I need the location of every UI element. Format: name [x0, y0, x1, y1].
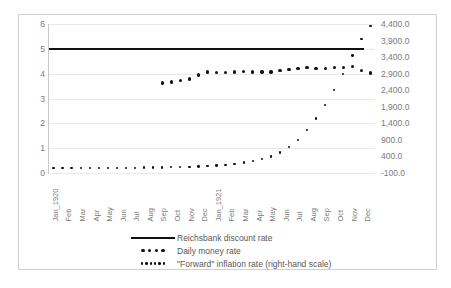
x-axis-tick-label: Jul [133, 211, 141, 221]
legend-item[interactable]: Daily money rate [129, 244, 389, 257]
legend-line-icon [129, 231, 177, 244]
legend-dot [154, 262, 156, 264]
legend-item[interactable]: "Forward" inflation rate (right-hand sca… [129, 257, 389, 270]
data-point [306, 129, 308, 131]
data-point [314, 67, 317, 70]
legend-dot [141, 262, 143, 264]
x-axis-tick-label: May [269, 207, 277, 221]
x-axis-tick-label: Mar [78, 208, 86, 221]
data-point [170, 166, 172, 168]
data-point [269, 70, 272, 73]
x-axis-tick-label: Nov [350, 208, 358, 221]
right-axis-tick-label: 2,400.0 [381, 86, 409, 95]
data-point [287, 68, 290, 71]
x-axis-tick-label: Jan_1920 [51, 188, 59, 221]
small-dots-icon [141, 262, 165, 264]
data-point [80, 167, 82, 169]
legend-dot [145, 262, 147, 264]
x-axis-tick-label: Nov [187, 208, 195, 221]
data-point [360, 38, 362, 40]
data-point [197, 165, 199, 167]
data-point [107, 167, 109, 169]
data-point [179, 79, 182, 82]
gridline [49, 74, 375, 75]
x-axis-tick-label: Sep [323, 208, 331, 221]
data-point [324, 67, 327, 70]
data-point [197, 73, 200, 76]
data-point [297, 139, 299, 141]
data-point [143, 166, 145, 168]
right-axis-tick-label: 4,400.0 [381, 20, 409, 29]
x-axis-tick-label: Apr [255, 209, 263, 221]
x-axis-tick-label: Aug [146, 208, 154, 221]
gridline [49, 24, 375, 25]
right-axis-tick-label: 3,900.0 [381, 36, 409, 45]
legend-label: "Forward" inflation rate (right-hand sca… [177, 259, 331, 269]
gridline [49, 148, 375, 149]
x-axis-tick-label: Aug [309, 208, 317, 221]
data-point [98, 167, 100, 169]
data-point [170, 80, 173, 83]
plot-area [49, 24, 375, 173]
data-point [188, 77, 191, 80]
data-point [270, 155, 272, 157]
data-point [252, 160, 254, 162]
data-point [52, 167, 54, 169]
data-point [333, 66, 336, 69]
left-axis-tick-label: 6 [40, 20, 45, 29]
series-reichsbank-discount-rate [49, 48, 364, 50]
legend-dot [148, 249, 151, 252]
data-point [369, 25, 371, 27]
gridline [49, 123, 375, 124]
x-axis-tick-label: Feb [228, 208, 236, 221]
data-point [243, 161, 245, 163]
data-point [206, 165, 208, 167]
data-point [233, 163, 235, 165]
x-axis-tick-label: May [106, 207, 114, 221]
data-point [315, 117, 317, 119]
left-axis-tick-labels: 0123456 [19, 24, 45, 173]
left-axis-tick-label: 5 [40, 45, 45, 54]
right-axis-tick-labels: -100.0400.0900.01,400.01,900.02,400.02,9… [381, 24, 437, 173]
data-point [89, 167, 91, 169]
data-point [351, 65, 354, 68]
data-point [351, 54, 353, 56]
legend-large-dots-icon [129, 244, 177, 257]
chart-legend: Reichsbank discount rateDaily money rate… [129, 231, 389, 270]
data-point [305, 66, 308, 69]
data-point [161, 81, 164, 84]
gridline [49, 99, 375, 100]
left-axis-tick-label: 0 [40, 169, 45, 178]
legend-item[interactable]: Reichsbank discount rate [129, 231, 389, 244]
right-axis-tick-label: 2,900.0 [381, 69, 409, 78]
x-axis-tick-label: Feb [65, 208, 73, 221]
right-axis-tick-label: -100.0 [381, 169, 405, 178]
x-axis-tick-labels: Jan_1920FebMarAprMayJunJulAugSepOctNovDe… [49, 175, 375, 221]
data-point [360, 69, 363, 72]
x-axis-tick-label: Jun [119, 209, 127, 221]
x-axis-tick-label: Oct [337, 209, 345, 221]
data-point [179, 166, 181, 168]
legend-small-dots-icon [129, 257, 177, 270]
right-axis-tick-label: 3,400.0 [381, 53, 409, 62]
left-axis-tick-label: 2 [40, 119, 45, 128]
data-point [324, 104, 326, 106]
data-point [125, 167, 127, 169]
right-axis-tick-label: 1,900.0 [381, 103, 409, 112]
data-point [296, 67, 299, 70]
data-point [342, 66, 345, 69]
data-point [279, 151, 281, 153]
legend-label: Reichsbank discount rate [177, 233, 272, 243]
data-point [116, 167, 118, 169]
x-axis-tick-label: Dec [364, 208, 372, 221]
legend-dot [150, 262, 152, 264]
left-axis-tick-label: 4 [40, 69, 45, 78]
data-point [61, 167, 63, 169]
x-axis-tick-label: Mar [241, 208, 249, 221]
data-point [261, 158, 263, 160]
x-axis-tick-label: Oct [174, 209, 182, 221]
solid-line-icon [131, 237, 175, 239]
right-axis-tick-label: 1,400.0 [381, 119, 409, 128]
x-axis-tick-label: Dec [201, 208, 209, 221]
x-axis-tick-label: Apr [92, 209, 100, 221]
